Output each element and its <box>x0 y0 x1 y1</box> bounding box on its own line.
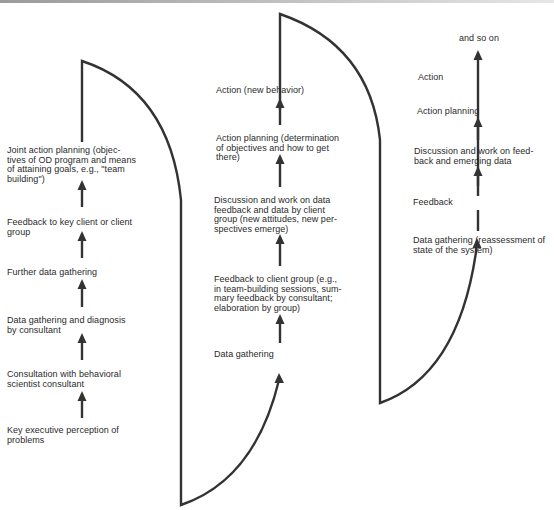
stage1-further-data-gathering: Further data gathering <box>7 268 97 278</box>
stage3-and-so-on: and so on <box>459 34 499 44</box>
stage2-data-gathering: Data gathering <box>214 350 274 360</box>
stage3-action-planning: Action planning <box>417 107 479 117</box>
stage1-data-gathering-diagnosis: Data gathering and diagnosis by consulta… <box>7 316 125 335</box>
stage3-feedback: Feedback <box>413 198 453 208</box>
stage1-consultation: Consultation with behavioral scientist c… <box>7 370 121 389</box>
stage2-discussion-work-data-feedback: Discussion and work on data feedback and… <box>214 196 337 234</box>
stage1-key-executive-perception: Key executive perception of problems <box>7 426 119 445</box>
stage3-action: Action <box>418 73 443 83</box>
stage2-feedback-to-client-group: Feedback to client group (e.g., in team-… <box>214 275 342 313</box>
stage1-feedback-key-client: Feedback to key client or client group <box>7 218 132 237</box>
stage1-joint-action-planning: Joint action planning (objec- tives of O… <box>7 146 136 184</box>
stage3-data-gathering-reassessment: Data gathering (reassessment of state of… <box>413 236 545 255</box>
stage2-action-new-behavior: Action (new behavior) <box>216 86 304 96</box>
stage3-discussion-work-feedback: Discussion and work on feed- back and em… <box>414 147 533 166</box>
stage2-action-planning: Action planning (determination of object… <box>216 134 339 163</box>
